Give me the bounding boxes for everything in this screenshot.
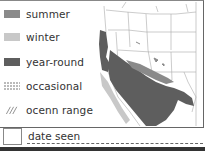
- western-us-range-map: [96, 2, 203, 126]
- range-map-panel: summer winter year-round occasional ocen: [0, 0, 204, 128]
- legend-item-ocean-range: ocenn range: [4, 103, 93, 117]
- year-round-swatch-icon: [4, 58, 20, 66]
- summer-swatch-icon: [4, 10, 20, 18]
- date-seen-label: date seen: [28, 130, 80, 142]
- legend-label: occasional: [26, 80, 82, 92]
- legend-item-summer: summer: [4, 7, 70, 21]
- winter-swatch-icon: [4, 33, 20, 41]
- legend-label: year-round: [26, 56, 84, 68]
- legend-item-year-round: year-round: [4, 55, 84, 69]
- legend-item-winter: winter: [4, 30, 60, 44]
- date-seen-checkbox[interactable]: [3, 128, 22, 145]
- bottom-edge: [0, 147, 205, 151]
- occasional-dotted-swatch-icon: [4, 82, 20, 90]
- legend-item-occasional: occasional: [4, 79, 82, 93]
- legend-label: ocenn range: [26, 104, 93, 116]
- ocean-range-hatch-icon: [4, 106, 20, 114]
- date-seen-line[interactable]: [27, 143, 203, 144]
- legend-label: winter: [26, 31, 60, 43]
- legend-label: summer: [26, 8, 70, 20]
